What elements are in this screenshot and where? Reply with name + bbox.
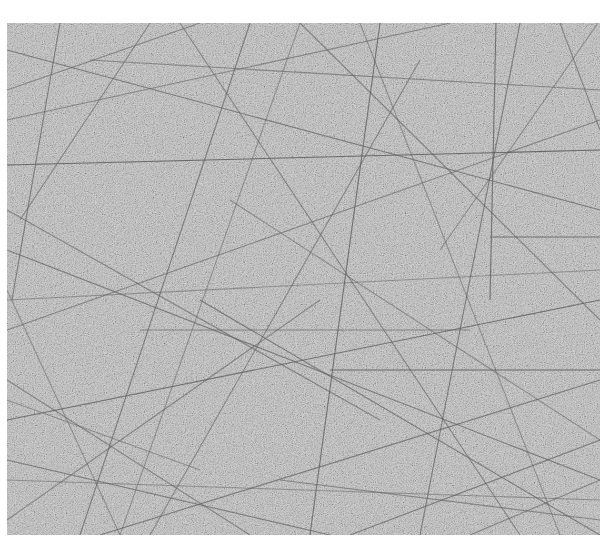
fiber-micrograph [0,0,614,553]
sample-surface [7,23,600,535]
fiber-image [0,0,614,553]
